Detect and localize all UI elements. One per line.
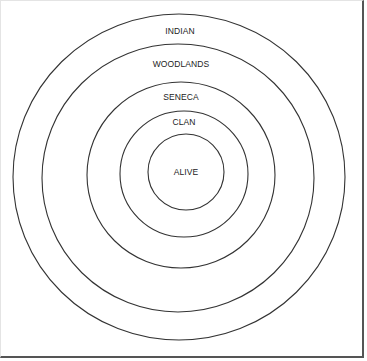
concentric-rings (0, 0, 367, 361)
ring-label-woodlands: WOODLANDS (153, 59, 210, 69)
ring-label-alive: ALIVE (174, 167, 199, 177)
ring-woodlands (42, 44, 314, 312)
diagram-canvas: INDIAN WOODLANDS SENECA CLAN ALIVE (0, 0, 367, 361)
ring-label-seneca: SENECA (163, 92, 199, 102)
ring-label-clan: CLAN (172, 117, 195, 127)
ring-label-indian: INDIAN (165, 26, 194, 36)
